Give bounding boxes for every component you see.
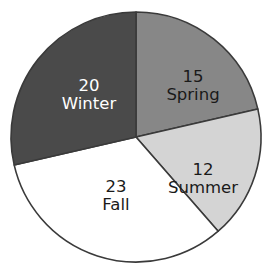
pie-slices-svg — [0, 0, 272, 277]
pie-slice-winter[interactable] — [11, 12, 136, 165]
pie-chart: · · · · · · · 15Spring12Summer23Fall20Wi… — [0, 0, 272, 277]
pie-slices-group — [11, 12, 261, 262]
